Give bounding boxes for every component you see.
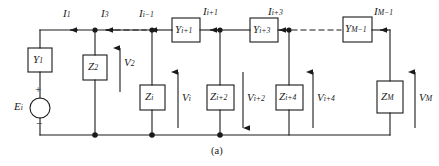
circuit-diagram-figure: I1 I3 Ii−1 Ii+1 Ii+3 IM−1 V2 Vi Vi+2 Vi+…	[0, 0, 439, 166]
voltage-label-v2: V2	[124, 57, 135, 68]
current-label-ii-plus-3: Ii+3	[268, 6, 283, 17]
label-yi-plus-1: Yi+1	[175, 24, 192, 35]
voltage-label-vi-plus-4: Vi+4	[317, 92, 335, 103]
junction-dots	[92, 27, 291, 137]
junction-dot-bottom-n2	[149, 132, 155, 138]
voltage-label-vm: VM	[419, 92, 432, 103]
label-zi: Zi	[145, 91, 153, 102]
current-label-ii-minus-1: Ii−1	[139, 8, 154, 19]
label-zi-plus-2: Zi+2	[210, 91, 227, 102]
label-ym-minus-1: YM−1	[345, 23, 367, 34]
label-source-ei: Ei	[14, 101, 23, 112]
label-z2: Z2	[88, 61, 98, 72]
current-label-im-minus-1: IM−1	[374, 6, 393, 17]
figure-caption: (a)	[211, 145, 223, 156]
label-y1: Y1	[33, 54, 43, 65]
current-label-i1: I1	[63, 8, 71, 19]
junction-dot-bottom-n3	[217, 132, 223, 138]
label-yi-plus-3: Yi+3	[253, 24, 270, 35]
circuit-schematic-canvas	[0, 0, 439, 166]
voltage-label-vi: Vi	[182, 92, 191, 103]
source-plus-sign: +	[35, 83, 41, 95]
voltage-source-circle	[30, 98, 50, 118]
junction-dot-top-n4	[286, 27, 291, 32]
junction-dot-top-n3	[217, 27, 222, 32]
voltage-label-vi-plus-2: Vi+2	[247, 92, 265, 103]
current-label-ii-plus-1: Ii+1	[203, 6, 218, 17]
label-zm: ZM	[381, 91, 394, 102]
junction-dot-top-n1	[92, 27, 97, 32]
junction-dot-bottom-n1	[92, 132, 98, 138]
label-zi-plus-4: Zi+4	[279, 91, 296, 102]
source-minus-sign: −	[36, 117, 42, 129]
current-label-i3: I3	[101, 8, 109, 19]
